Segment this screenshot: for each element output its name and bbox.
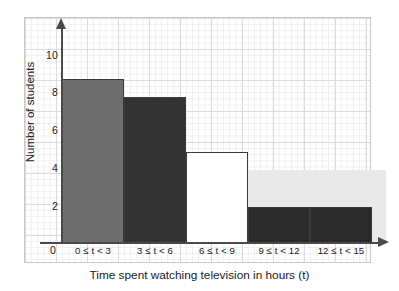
plot-area [62,43,386,243]
x-tick-label-2: 6 ≤ t < 9 [186,245,248,256]
bar-2 [186,152,248,243]
y-axis-arrow-icon [56,18,66,29]
x-tick-label-1: 3 ≤ t < 6 [124,245,186,256]
y-axis-line [61,26,63,244]
y-tick-2: 2 [32,200,58,212]
bar-0 [62,79,124,243]
x-tick-label-4: 12 ≤ t < 15 [310,245,372,256]
x-axis-arrow-icon [378,237,389,247]
x-axis-line [40,242,380,244]
y-axis-origin-label: 0 [50,244,56,256]
y-axis-title: Number of students [24,42,36,182]
bar-3 [248,207,310,244]
x-tick-label-3: 9 ≤ t < 12 [248,245,310,256]
bar-4 [310,207,372,243]
bar-1 [124,97,186,243]
x-tick-label-0: 0 ≤ t < 3 [62,245,124,256]
histogram-chart: 10 8 6 4 2 0 Number of students 0 ≤ t < … [0,0,399,291]
x-axis-title: Time spent watching television in hours … [0,268,399,282]
bar-series [62,170,386,243]
